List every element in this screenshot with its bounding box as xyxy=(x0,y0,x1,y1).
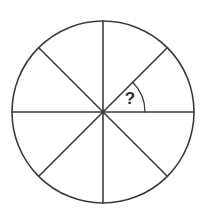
circle-sector-diagram: Circle divided into eight equal sectors … xyxy=(0,0,205,221)
unknown-angle-label: ? xyxy=(125,89,135,108)
figure-canvas: Circle divided into eight equal sectors … xyxy=(0,0,205,221)
